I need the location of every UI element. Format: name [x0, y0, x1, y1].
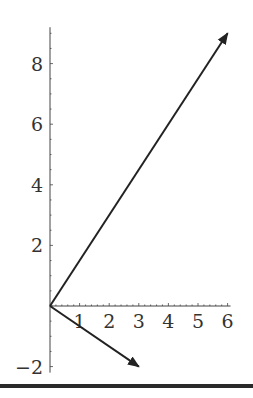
x-tick-label: 3: [133, 310, 145, 332]
vector-plot: 123456−22468: [0, 0, 253, 398]
tick-labels: 123456−22468: [15, 53, 234, 378]
x-tick-label: 2: [103, 310, 115, 332]
y-tick-label: −2: [15, 356, 43, 378]
vector-1-arrow: [50, 33, 228, 306]
x-tick-label: 4: [162, 310, 174, 332]
y-tick-label: 2: [31, 234, 43, 256]
vector-2-arrow: [50, 306, 139, 367]
y-tick-label: 8: [31, 53, 43, 75]
y-tick-label: 6: [31, 113, 43, 135]
x-tick-label: 5: [192, 310, 204, 332]
x-tick-label: 6: [222, 310, 234, 332]
bottom-rule: [0, 384, 253, 388]
y-tick-label: 4: [31, 174, 43, 196]
